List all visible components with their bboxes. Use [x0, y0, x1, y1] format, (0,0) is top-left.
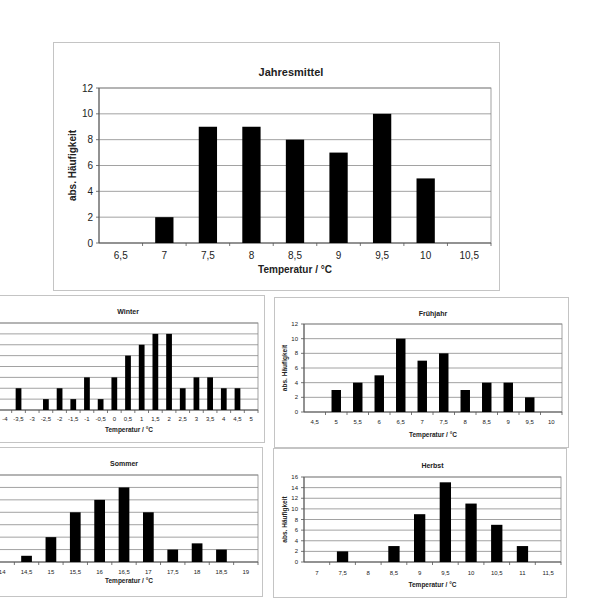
- y-tick-label: 0: [295, 559, 299, 565]
- y-tick-label: 8: [87, 134, 93, 145]
- x-tick-label: 17,5: [167, 569, 179, 575]
- bar-7,5: [337, 551, 348, 562]
- y-tick-label: 10: [291, 506, 298, 512]
- y-tick-label: 4: [295, 380, 299, 386]
- y-tick-label: 8: [295, 350, 299, 356]
- bar-8: [242, 127, 260, 243]
- x-axis-label: Temperatur / °C: [409, 581, 457, 589]
- x-tick-label: 16,5: [118, 569, 130, 575]
- x-tick-label: 9: [336, 250, 342, 261]
- x-tick-label: 6,5: [114, 250, 128, 261]
- chart-fruehjahr-plot: 0246810124,555,566,577,588,599,510Frühja…: [281, 310, 562, 439]
- x-axis-label: Temperatur / °C: [258, 264, 332, 275]
- bar--2: [57, 388, 63, 410]
- y-tick-label: 4: [87, 186, 93, 197]
- bar-7: [418, 361, 427, 412]
- x-tick-label: 4: [222, 416, 226, 422]
- x-tick-label: 1,5: [151, 416, 160, 422]
- bar-5: [332, 390, 341, 412]
- bar-9: [414, 514, 425, 562]
- x-tick-label: 14,5: [21, 569, 33, 575]
- y-axis-label: abs. Häufigkeit: [67, 129, 78, 201]
- bar-2,5: [180, 388, 186, 410]
- x-tick-label: 3: [195, 416, 199, 422]
- x-tick-label: 4,5: [311, 419, 320, 425]
- x-tick-label: 9,5: [526, 419, 535, 425]
- y-tick-label: 6: [295, 365, 299, 371]
- y-tick-label: 0: [295, 409, 299, 415]
- x-tick-label: 8: [249, 250, 255, 261]
- bar-6: [375, 375, 384, 412]
- x-tick-label: 11,5: [543, 570, 555, 576]
- bar-16: [94, 500, 105, 562]
- bar-17,5: [167, 550, 178, 562]
- x-tick-label: 10: [420, 250, 432, 261]
- y-tick-label: 14: [291, 485, 298, 491]
- x-tick-label: 9: [507, 419, 511, 425]
- x-tick-label: 16: [96, 569, 103, 575]
- y-tick-label: 2: [295, 548, 299, 554]
- x-axis-label: Temperatur / °C: [105, 426, 153, 434]
- bar-8,5: [388, 546, 399, 562]
- x-tick-label: 7: [162, 250, 168, 261]
- y-tick-label: 6: [87, 160, 93, 171]
- y-tick-label: 2: [87, 212, 93, 223]
- bar-1: [139, 345, 145, 410]
- x-tick-label: -4: [2, 416, 8, 422]
- x-tick-label: 10: [468, 570, 475, 576]
- bar-7,5: [199, 127, 217, 243]
- y-tick-label: 12: [291, 321, 298, 327]
- bar-9: [504, 383, 513, 412]
- x-tick-label: 7: [421, 419, 425, 425]
- bar-0,5: [125, 356, 131, 410]
- y-tick-label: 0: [87, 238, 93, 249]
- bar-9,5: [525, 397, 534, 412]
- bar--0,5: [98, 399, 104, 410]
- bar-8,5: [482, 383, 491, 412]
- bar-3: [194, 377, 200, 410]
- bar-18: [192, 543, 203, 562]
- y-tick-label: 6: [295, 527, 299, 533]
- x-tick-label: 15,5: [69, 569, 81, 575]
- x-tick-label: -0,5: [95, 416, 106, 422]
- bar-16,5: [119, 487, 130, 562]
- y-tick-label: 10: [82, 108, 94, 119]
- bar-18,5: [216, 550, 227, 562]
- bar--1: [84, 377, 90, 410]
- bar-14,5: [21, 556, 32, 562]
- bar--2,5: [43, 399, 49, 410]
- chart-title: Winter: [117, 308, 139, 315]
- bar-4: [221, 388, 227, 410]
- x-tick-label: -2: [57, 416, 63, 422]
- y-tick-label: 2: [295, 394, 299, 400]
- y-tick-label: 8: [295, 517, 299, 523]
- bar-11: [517, 546, 528, 562]
- bar-5,5: [353, 383, 362, 412]
- x-tick-label: 10,5: [491, 570, 503, 576]
- bar-1,5: [152, 334, 158, 410]
- x-tick-label: 5: [249, 416, 253, 422]
- x-tick-label: 5,5: [354, 419, 363, 425]
- bar-7: [155, 217, 173, 243]
- x-tick-label: 17: [145, 569, 152, 575]
- y-axis-label: abs. Häufigkeit: [281, 496, 289, 543]
- chart-title: Jahresmittel: [259, 66, 324, 78]
- bar-3,5: [207, 377, 213, 410]
- x-tick-label: 0: [113, 416, 117, 422]
- bar--1,5: [70, 399, 76, 410]
- x-tick-label: 7,5: [201, 250, 215, 261]
- x-tick-label: 0,5: [124, 416, 133, 422]
- bar-9: [329, 153, 347, 243]
- bar-0: [111, 377, 117, 410]
- x-tick-label: 10: [548, 419, 555, 425]
- x-tick-label: -1,5: [68, 416, 79, 422]
- x-tick-label: 8,5: [390, 570, 399, 576]
- bar-6,5: [396, 339, 405, 412]
- chart-jahresmittel-plot: 0246810126,577,588,599,51010,5Jahresmitt…: [67, 66, 491, 275]
- chart-title: Frühjahr: [419, 310, 448, 318]
- bar-2: [166, 334, 172, 410]
- bar-7,5: [439, 353, 448, 412]
- x-tick-label: 5: [335, 419, 339, 425]
- x-tick-label: -1: [84, 416, 90, 422]
